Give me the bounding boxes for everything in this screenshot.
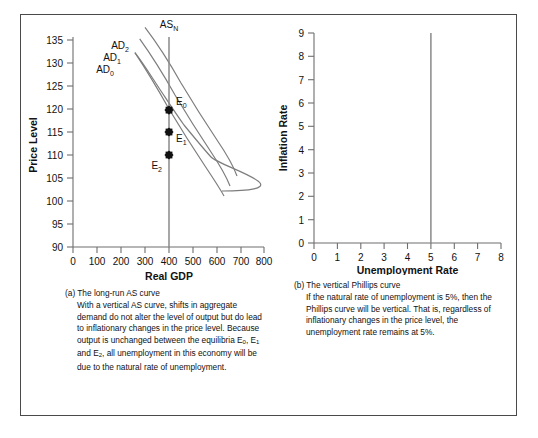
panel-long-run-as-curve: 90 95 100 105 110 115 120 125 130 135 xyxy=(21,15,276,417)
y-tick-b-5: 5 xyxy=(298,121,304,132)
chart-long-run-as-curve: 90 95 100 105 110 115 120 125 130 135 xyxy=(21,15,276,283)
series-label-ad0: AD0 xyxy=(96,64,114,77)
x-tick-b-7: 7 xyxy=(475,252,481,263)
x-tick-300: 300 xyxy=(137,256,154,267)
series-label-as-natural: ASN xyxy=(160,19,178,32)
x-tick-0: 0 xyxy=(70,256,76,267)
x-tick-b-6: 6 xyxy=(452,252,458,263)
y-axis-tick-labels: 90 95 100 105 110 115 120 125 130 135 xyxy=(46,35,63,253)
y-tick-115: 115 xyxy=(47,127,63,138)
x-tick-400: 400 xyxy=(161,256,178,267)
x-axis-title: Real GDP xyxy=(145,270,193,282)
equilibrium-point-e2 xyxy=(164,150,173,159)
x-tick-100: 100 xyxy=(89,256,106,267)
y-tick-120: 120 xyxy=(46,104,63,115)
x-axis-tick-labels-b: 0 1 2 3 4 5 6 7 8 xyxy=(311,252,504,263)
y-tick-b-4: 4 xyxy=(298,145,304,156)
caption-title-b: (b) The vertical Phillips curve xyxy=(294,280,509,291)
caption-title-a: (a) The long-run AS curve xyxy=(65,288,265,299)
curve-ad2 xyxy=(145,27,237,176)
x-axis-tick-labels: 0 100 200 300 400 500 600 700 800 xyxy=(70,256,273,267)
y-tick-b-0: 0 xyxy=(298,238,304,249)
y-tick-110: 110 xyxy=(47,150,63,161)
x-tick-b-0: 0 xyxy=(311,252,317,263)
y-tick-95: 95 xyxy=(52,219,64,230)
point-label-e2: E2 xyxy=(151,160,162,173)
y-tick-105: 105 xyxy=(46,173,63,184)
y-tick-125: 125 xyxy=(46,81,63,92)
y-tick-130: 130 xyxy=(46,58,63,69)
y-axis-ticks-b xyxy=(308,33,314,243)
y-axis-title: Price Level xyxy=(27,117,39,173)
x-axis-title-b: Unemployment Rate xyxy=(357,264,459,275)
y-axis-ticks xyxy=(67,40,73,247)
caption-panel-b: (b) The vertical Phillips curve If the n… xyxy=(294,280,509,338)
x-tick-b-8: 8 xyxy=(498,252,504,263)
y-tick-b-1: 1 xyxy=(298,215,304,226)
x-tick-600: 600 xyxy=(209,256,226,267)
caption-body-b: If the natural rate of unemployment is 5… xyxy=(306,292,509,338)
equilibrium-point-e0 xyxy=(164,106,173,115)
curve-ad0-path xyxy=(135,53,224,196)
y-tick-b-2: 2 xyxy=(298,191,304,202)
caption-body-a: With a vertical AS curve, shifts in aggr… xyxy=(77,300,265,373)
y-tick-100: 100 xyxy=(46,196,63,207)
x-tick-b-4: 4 xyxy=(405,252,411,263)
y-tick-b-9: 9 xyxy=(298,28,304,39)
y-tick-b-7: 7 xyxy=(298,75,304,86)
y-tick-b-3: 3 xyxy=(298,168,304,179)
x-tick-b-1: 1 xyxy=(335,252,341,263)
y-tick-135: 135 xyxy=(46,35,63,46)
x-axis-ticks xyxy=(73,247,264,253)
x-tick-b-2: 2 xyxy=(358,252,364,263)
caption-panel-a: (a) The long-run AS curve With a vertica… xyxy=(65,288,265,373)
x-tick-b-3: 3 xyxy=(381,252,387,263)
x-tick-800: 800 xyxy=(256,256,273,267)
y-axis-tick-labels-b: 0 1 2 3 4 5 6 7 8 9 xyxy=(298,28,304,249)
y-tick-b-6: 6 xyxy=(298,98,304,109)
x-tick-500: 500 xyxy=(185,256,202,267)
x-axis-ticks-b xyxy=(314,243,501,249)
x-tick-b-5: 5 xyxy=(428,252,434,263)
equilibrium-point-e1 xyxy=(164,127,173,136)
y-axis-title-b: Inflation Rate xyxy=(277,105,289,172)
chart-vertical-phillips-curve: 0 1 2 3 4 5 6 7 8 9 xyxy=(276,15,518,275)
point-label-e0: E0 xyxy=(176,96,187,109)
y-tick-b-8: 8 xyxy=(298,51,304,62)
y-tick-90: 90 xyxy=(52,242,64,253)
panel-vertical-phillips-curve: 0 1 2 3 4 5 6 7 8 9 xyxy=(276,15,518,417)
x-tick-700: 700 xyxy=(233,256,250,267)
x-tick-200: 200 xyxy=(113,256,130,267)
figure-frame: 90 95 100 105 110 115 120 125 130 135 xyxy=(20,14,517,416)
